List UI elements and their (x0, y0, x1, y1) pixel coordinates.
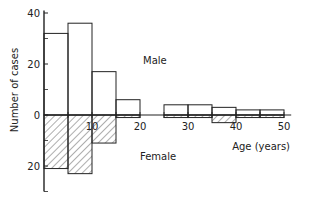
y-tick-label: 40 (27, 8, 40, 19)
annotation-male: Male (143, 55, 167, 66)
male-bar-0-5 (44, 33, 68, 115)
male-bar-40-45 (236, 110, 260, 115)
male-bar-35-40 (212, 107, 236, 115)
male-bar-10-15 (92, 72, 116, 115)
x-tick-label: 40 (230, 121, 243, 132)
histogram-chart: 20020401020304050 Number of cases Age (y… (0, 0, 309, 200)
y-axis-title: Number of cases (9, 48, 20, 132)
male-bar-30-35 (188, 105, 212, 115)
male-bar-15-20 (116, 100, 140, 115)
y-tick-label: 0 (34, 110, 40, 121)
female-bar-0-5 (44, 115, 68, 169)
y-tick-label: 20 (27, 59, 40, 70)
x-tick-label: 30 (182, 121, 195, 132)
male-bars (44, 23, 284, 115)
male-bar-25-30 (164, 105, 188, 115)
x-tick-label: 20 (134, 121, 147, 132)
x-axis-title: Age (years) (232, 141, 290, 152)
y-tick-label: 20 (27, 161, 40, 172)
male-bar-5-10 (68, 23, 92, 115)
x-tick-label: 50 (278, 121, 291, 132)
male-bar-45-50 (260, 110, 284, 115)
x-tick-label: 10 (86, 121, 99, 132)
annotation-female: Female (140, 151, 176, 162)
